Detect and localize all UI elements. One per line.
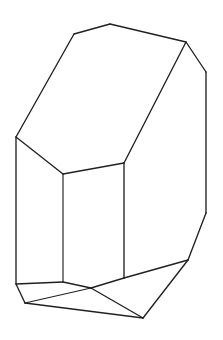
crystal-wireframe-diagram	[0, 0, 223, 340]
figure-canvas	[0, 0, 223, 340]
face-front-center	[63, 163, 124, 282]
